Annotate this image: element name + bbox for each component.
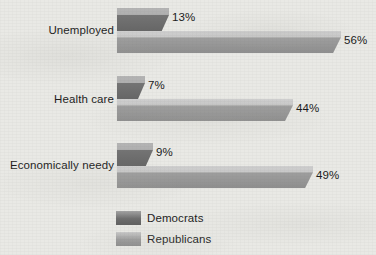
category-label-economically-needy: Economically needy — [10, 159, 114, 171]
legend-swatch-democrats — [116, 211, 141, 225]
chart-canvas: Unemployed 13% 56% Health care 7% 44% Ec… — [0, 0, 376, 255]
bar-health-care-democrats — [117, 76, 145, 99]
value-label-unemployed-republicans: 56% — [344, 34, 367, 46]
bar-unemployed-republicans — [117, 31, 341, 53]
value-label-health-care-democrats: 7% — [148, 79, 165, 91]
bar-unemployed-democrats — [117, 8, 169, 31]
bar-health-care-republicans — [117, 99, 293, 121]
value-label-economically-needy-democrats: 9% — [156, 146, 173, 158]
bar-economically-needy-democrats — [117, 143, 153, 166]
value-label-unemployed-democrats: 13% — [172, 11, 195, 23]
legend-label-democrats: Democrats — [147, 212, 204, 224]
legend-label-republicans: Republicans — [147, 233, 211, 245]
category-label-health-care: Health care — [54, 93, 114, 105]
value-label-health-care-republicans: 44% — [296, 102, 319, 114]
legend-swatch-republicans — [116, 232, 141, 246]
bar-economically-needy-republicans — [117, 166, 313, 188]
category-label-unemployed: Unemployed — [48, 24, 114, 36]
value-label-economically-needy-republicans: 49% — [316, 169, 339, 181]
